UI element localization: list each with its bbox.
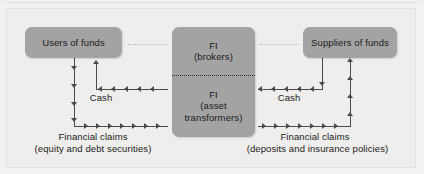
right-claims-chevron-4 — [298, 123, 302, 129]
right-claims-chevron-2 — [274, 123, 278, 129]
left-claims-chevron-7 — [156, 123, 160, 129]
left-claims-chevron-5 — [132, 123, 136, 129]
right-claims-up-chevron-2 — [347, 76, 353, 80]
left-claims-chevron-3 — [108, 123, 112, 129]
left-claims-chevron-4 — [120, 123, 124, 129]
entity-box-users-of-funds[interactable]: Users of funds — [25, 27, 122, 58]
top-rule — [6, 2, 418, 3]
left-claims-chevron-2 — [96, 123, 100, 129]
fi-divider-line — [172, 75, 255, 76]
fi-asset-transformers-label-line1: FI — [209, 89, 218, 101]
right-claims-up-chevron-1 — [347, 58, 353, 62]
right-cash-down-tick — [322, 64, 323, 69]
connector-fi-to-suppliers — [259, 44, 299, 45]
left-cash-chevron-3 — [124, 86, 128, 92]
left-cash-label: Cash — [80, 92, 122, 104]
right-claims-chevron-1 — [262, 123, 266, 129]
left-cash-chevron-5 — [150, 86, 154, 92]
fi-asset-transformers-half: FI (asset transformers) — [172, 75, 255, 137]
fi-brokers-label-line1: FI — [209, 40, 218, 52]
left-down-chevron-3 — [71, 102, 77, 106]
right-claims-label-line1: Financial claims — [240, 131, 390, 143]
fi-asset-transformers-label-line2: (asset — [200, 100, 226, 112]
connector-users-to-fi — [128, 44, 168, 45]
right-claims-label-line2: (deposits and insurance policies) — [225, 143, 410, 155]
right-cash-label: Cash — [268, 92, 310, 104]
right-claims-chevron-6 — [322, 123, 326, 129]
left-down-chevron-4 — [71, 118, 77, 122]
right-cash-chevron-5 — [310, 86, 314, 92]
right-claims-up-chevron-3 — [347, 94, 353, 98]
right-cash-down-chevron — [319, 82, 325, 86]
right-claims-up-chevron-4 — [347, 112, 353, 116]
right-claims-chevron-7 — [334, 123, 338, 129]
left-down-chevron-2 — [71, 84, 77, 88]
left-down-chevron-1 — [71, 66, 77, 70]
fi-asset-transformers-label-line3: transformers) — [185, 112, 243, 124]
right-claims-chevron-5 — [310, 123, 314, 129]
left-cash-chevron-4 — [137, 86, 141, 92]
suppliers-of-funds-label: Suppliers of funds — [311, 37, 389, 49]
figure-root: Cash Financial claims (equity and debt s… — [0, 0, 424, 174]
fi-brokers-half: FI (brokers) — [172, 27, 255, 75]
left-cash-up-chevron — [93, 60, 99, 64]
left-claims-chevron-6 — [144, 123, 148, 129]
left-cash-up-tick — [96, 76, 97, 81]
left-claims-chevron-1 — [84, 123, 88, 129]
entity-box-financial-institutions[interactable]: FI (brokers) FI (asset transformers) — [172, 27, 255, 137]
entity-box-suppliers-of-funds[interactable]: Suppliers of funds — [303, 27, 397, 58]
right-claims-chevron-3 — [286, 123, 290, 129]
users-of-funds-label: Users of funds — [42, 37, 105, 49]
left-cash-rail — [96, 89, 168, 90]
right-cash-chevron-1 — [258, 86, 262, 92]
fi-brokers-label-line2: (brokers) — [194, 51, 233, 63]
left-claims-label-line1: Financial claims — [18, 131, 168, 143]
left-claims-label-line2: (equity and debt securities) — [8, 143, 178, 155]
